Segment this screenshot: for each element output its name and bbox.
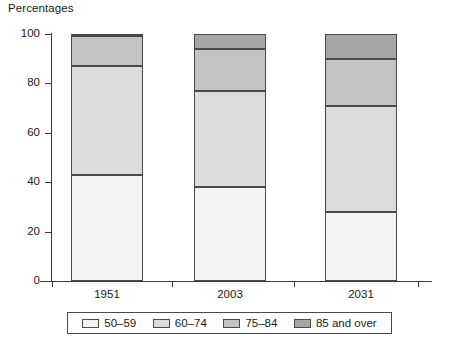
bar-segment	[325, 106, 397, 212]
y-tick-label-wrap: 60	[0, 127, 40, 139]
legend-swatch	[82, 319, 99, 328]
plot-area	[52, 34, 418, 281]
y-tick-label-wrap: 100	[0, 28, 40, 40]
x-axis-label: 2003	[170, 288, 290, 301]
x-tick-mark	[52, 281, 53, 287]
legend-swatch	[153, 319, 170, 328]
bar-segment	[71, 34, 143, 36]
bar-segment	[71, 66, 143, 175]
bar-segment	[194, 34, 266, 49]
y-tick-mark	[45, 34, 52, 35]
y-tick-label-wrap: 20	[0, 226, 40, 238]
bar-segment	[325, 59, 397, 106]
y-tick-mark	[45, 182, 52, 183]
bar-segment	[194, 187, 266, 281]
chart-legend: 50–5960–7475–8485 and over	[67, 312, 392, 334]
bar-segment	[71, 175, 143, 281]
bar-group	[325, 34, 397, 281]
y-tick-label: 80	[14, 77, 40, 89]
x-axis-label: 2031	[301, 288, 421, 301]
bar-segment	[71, 36, 143, 66]
y-tick-label-wrap: 0	[0, 275, 40, 287]
y-tick-label: 60	[14, 127, 40, 139]
legend-item: 75–84	[223, 317, 277, 329]
legend-item: 85 and over	[294, 317, 377, 329]
bar-segment	[194, 91, 266, 187]
bar-segment	[325, 212, 397, 281]
y-axis-title: Percentages	[8, 2, 74, 14]
legend-label: 50–59	[104, 317, 136, 329]
legend-label: 85 and over	[316, 317, 377, 329]
y-tick-mark	[45, 232, 52, 233]
x-axis-line	[40, 281, 432, 282]
legend-swatch	[294, 319, 311, 328]
y-tick-mark	[45, 83, 52, 84]
bar-group	[71, 34, 143, 281]
y-tick-mark	[45, 281, 52, 282]
legend-label: 75–84	[245, 317, 277, 329]
y-tick-label: 40	[14, 176, 40, 188]
legend-swatch	[223, 319, 240, 328]
y-tick-label: 0	[14, 275, 40, 287]
stacked-bar-chart: Percentages 020406080100 195120032031 50…	[0, 0, 461, 350]
bar-segment	[194, 49, 266, 91]
x-axis-label: 1951	[47, 288, 167, 301]
y-tick-label-wrap: 40	[0, 176, 40, 188]
bar-segment	[325, 34, 397, 59]
bar-group	[194, 34, 266, 281]
y-tick-label: 20	[14, 226, 40, 238]
x-tick-mark	[172, 281, 173, 287]
x-tick-mark	[418, 281, 419, 287]
legend-label: 60–74	[175, 317, 207, 329]
x-tick-mark	[294, 281, 295, 287]
legend-item: 60–74	[153, 317, 207, 329]
y-tick-mark	[45, 133, 52, 134]
y-tick-label-wrap: 80	[0, 77, 40, 89]
legend-item: 50–59	[82, 317, 136, 329]
y-tick-label: 100	[14, 28, 40, 40]
